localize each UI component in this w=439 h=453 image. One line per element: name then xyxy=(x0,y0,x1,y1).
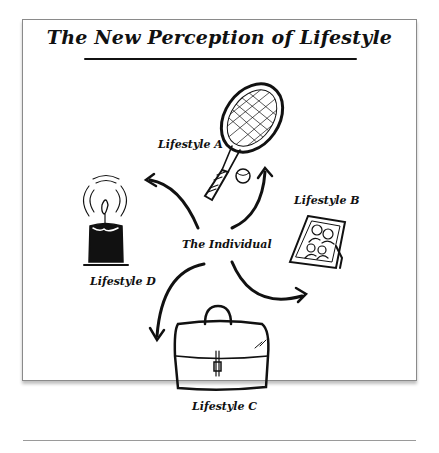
tennis-racket-icon xyxy=(205,72,295,200)
arrow-to-lifestyle-d xyxy=(150,180,198,228)
arrow-to-lifestyle-b xyxy=(232,262,302,299)
lifestyle-d-label: Lifestyle D xyxy=(90,275,156,288)
lifestyle-a-label: Lifestyle A xyxy=(158,138,223,151)
center-label: The Individual xyxy=(182,238,272,251)
diagram-art xyxy=(0,0,439,453)
briefcase-icon xyxy=(175,306,269,390)
arrows xyxy=(146,168,306,340)
lifestyle-c-label: Lifestyle C xyxy=(192,400,257,413)
lifestyle-b-label: Lifestyle B xyxy=(294,194,360,207)
family-photo-frame-icon xyxy=(290,216,345,268)
candle-icon xyxy=(84,176,129,266)
arrow-to-lifestyle-c xyxy=(157,264,204,336)
